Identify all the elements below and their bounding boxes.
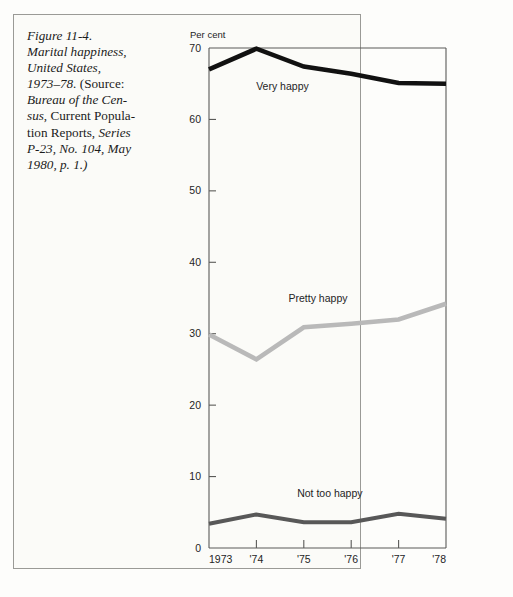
caption-line: 1980, p. 1.) <box>27 157 179 173</box>
caption-line: 1973–78. (Source: <box>27 76 179 92</box>
caption-run: sus <box>27 108 44 123</box>
caption-line: sus, Current Popula- <box>27 108 179 124</box>
caption-run: Marital happiness, <box>27 44 127 59</box>
caption-run: (Source: <box>76 76 124 91</box>
caption-line: Marital happiness, <box>27 44 179 60</box>
caption-run: Figure 11-4. <box>27 28 92 43</box>
caption-line: Figure 11-4. <box>27 28 179 44</box>
x-tick-label: '77 <box>392 553 406 565</box>
caption-line: P-23, No. 104, May <box>27 141 179 157</box>
caption-run: Series <box>95 125 131 140</box>
caption-line: United States, <box>27 60 179 76</box>
caption-line: tion Reports, Series <box>27 125 179 141</box>
figure-caption: Figure 11-4.Marital happiness,United Sta… <box>27 28 179 173</box>
caption-run: , Current Popula- <box>44 108 135 123</box>
caption-run: P-23, No. 104, May <box>27 141 131 156</box>
caption-run: Bureau of the Cen- <box>27 92 127 107</box>
caption-run: United States, <box>27 60 101 75</box>
x-tick-label: '78 <box>432 553 446 565</box>
caption-line: Bureau of the Cen- <box>27 92 179 108</box>
figure-page: Figure 11-4.Marital happiness,United Sta… <box>0 0 513 597</box>
caption-run: tion Reports, <box>27 125 95 140</box>
caption-run: 1980, p. 1.) <box>27 157 87 172</box>
caption-run: 1973–78. <box>27 76 76 91</box>
